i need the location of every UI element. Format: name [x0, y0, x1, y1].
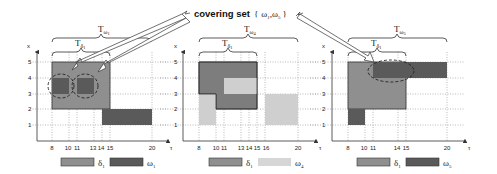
omega1-region-c [102, 109, 152, 125]
legend-label-omega5: ω5 [443, 158, 452, 169]
tau-tick: 8 [197, 145, 201, 151]
y-tick: 2 [28, 106, 32, 112]
tau-tick: 14 [394, 145, 401, 151]
y-tick: 4 [174, 75, 178, 81]
legend-swatch-delta1 [209, 158, 242, 166]
tau-axis-label: τ [319, 145, 322, 151]
x-axis-label: x [174, 43, 177, 49]
y-tick: 3 [28, 91, 32, 97]
y-tick: 3 [174, 91, 178, 97]
tau-tick: 14 [98, 145, 105, 151]
x-axis-label: x [322, 43, 325, 49]
legend-label-delta1: δ1 [246, 158, 253, 169]
legend-swatch-omega4 [258, 158, 291, 166]
legend-swatch-omega5 [406, 158, 439, 166]
y-tick: 5 [28, 59, 32, 65]
legend-label-delta1: δ1 [394, 158, 401, 169]
legend-swatch-omega1 [110, 158, 143, 166]
brace-inner-label: Tδ1 [222, 38, 233, 50]
tau-tick: 10 [361, 145, 368, 151]
covering-set-value: {ω1,ω5} [254, 9, 287, 20]
tau-tick: 20 [295, 145, 302, 151]
y-tick: 2 [174, 106, 178, 112]
brace-inner-label: Tδ1 [75, 38, 86, 50]
omega4-region-c [265, 94, 298, 125]
legend-label-omega1: ω1 [147, 158, 156, 169]
brace-inner-label: Tδ1 [371, 38, 382, 50]
tau-tick: 11 [74, 145, 81, 151]
y-tick: 4 [28, 75, 32, 81]
omega1-region-a [52, 78, 69, 94]
tau-axis-label: τ [170, 145, 173, 151]
covering-set-diagram: x 5 4 3 2 1 8 10 11 13 14 15 20 τ Tω1 Tδ… [0, 0, 497, 174]
tau-tick: 14 [246, 145, 253, 151]
tau-tick: 15 [107, 145, 114, 151]
tau-tick: 13 [238, 145, 245, 151]
tau-tick: 20 [149, 145, 156, 151]
omega4-region-b [199, 94, 216, 125]
tau-tick: 20 [444, 145, 451, 151]
brace-outer-label: Tω1 [98, 24, 110, 36]
callout-arrow-left-1 [72, 14, 186, 70]
y-tick: 1 [174, 122, 178, 128]
x-axis-label: x [27, 43, 30, 49]
covering-set-label: covering set [194, 8, 251, 19]
tau-tick: 11 [221, 145, 228, 151]
omega1-region-b [77, 78, 94, 94]
tau-tick: 8 [50, 145, 54, 151]
tau-tick: 15 [254, 145, 261, 151]
brace-inner [199, 48, 257, 56]
brace-outer [199, 34, 298, 42]
tau-tick: 16 [263, 145, 270, 151]
tau-tick: 10 [213, 145, 220, 151]
legend-label-delta1: δ1 [98, 158, 105, 169]
panel-3: x 5 4 3 2 1 8 10 11 14 15 20 τ Tω5 Tδ1 δ… [310, 24, 471, 169]
tau-tick: 8 [346, 145, 350, 151]
panel-2: x 5 4 3 2 1 8 10 11 13 14 15 16 20 τ Tω4… [160, 24, 322, 169]
omega4-region-a [224, 78, 257, 94]
brace-outer-label: Tω5 [394, 24, 406, 36]
legend-label-omega4: ω4 [295, 158, 304, 169]
legend-swatch-delta1 [61, 158, 94, 166]
brace-outer-label: Tω4 [244, 24, 256, 36]
y-tick: 1 [28, 122, 32, 128]
legend-swatch-delta1 [357, 158, 390, 166]
tau-tick: 11 [370, 145, 377, 151]
omega5-region-b [348, 109, 365, 125]
y-tick: 5 [174, 59, 178, 65]
panel-1: x 5 4 3 2 1 8 10 11 13 14 15 20 τ Tω1 Tδ… [27, 24, 173, 169]
tau-tick: 13 [90, 145, 97, 151]
tau-tick: 15 [403, 145, 410, 151]
brace-outer [348, 34, 447, 42]
tau-tick: 10 [65, 145, 72, 151]
tau-axis-label: τ [468, 145, 471, 151]
